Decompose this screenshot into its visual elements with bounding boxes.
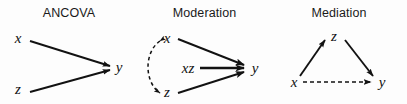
- node-z: z: [163, 84, 170, 100]
- diagram-mediation: z x y: [271, 0, 407, 104]
- node-y: y: [114, 59, 123, 75]
- node-x: x: [163, 30, 171, 46]
- node-x: x: [290, 74, 298, 90]
- edge-x-to-y: [30, 41, 110, 66]
- edge-z-to-y: [345, 40, 373, 76]
- figure-canvas: ANCOVA x z y Moderation: [0, 0, 407, 104]
- node-z: z: [330, 28, 337, 44]
- panel-ancova: ANCOVA x z y: [0, 0, 138, 104]
- panel-moderation: Moderation x z xz y: [138, 0, 271, 104]
- node-z: z: [14, 81, 21, 97]
- node-y: y: [250, 60, 259, 76]
- diagram-ancova: x z y: [0, 0, 138, 104]
- edge-x-z-correlation: [148, 41, 160, 93]
- node-xz: xz: [181, 60, 195, 76]
- panel-mediation: Mediation z x y: [271, 0, 407, 104]
- edge-z-to-y: [30, 70, 110, 92]
- diagram-moderation: x z xz y: [138, 0, 271, 104]
- node-y: y: [377, 74, 386, 90]
- edge-x-to-z: [300, 40, 325, 76]
- node-x: x: [14, 30, 22, 46]
